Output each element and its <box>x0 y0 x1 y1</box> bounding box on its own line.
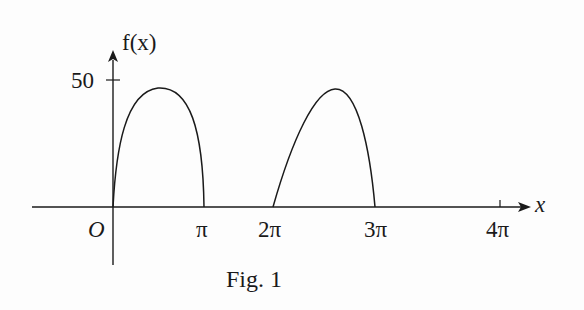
curve-hump-1 <box>113 88 204 207</box>
x-tick-label-pi: π <box>196 218 208 241</box>
y-tick-label: 50 <box>71 69 94 92</box>
x-tick-label-2pi: 2π <box>258 218 281 241</box>
figure: f(x) 50 x O π 2π 3π 4π Fig. 1 <box>0 0 584 310</box>
x-tick-label-3pi: 3π <box>364 218 387 241</box>
graph <box>0 0 584 310</box>
figure-caption: Fig. 1 <box>226 267 282 291</box>
x-axis-label: x <box>535 193 545 216</box>
y-axis-label: f(x) <box>122 31 156 54</box>
curve-hump-2 <box>273 89 375 207</box>
x-tick-label-4pi: 4π <box>486 218 509 241</box>
origin-label: O <box>88 218 105 241</box>
